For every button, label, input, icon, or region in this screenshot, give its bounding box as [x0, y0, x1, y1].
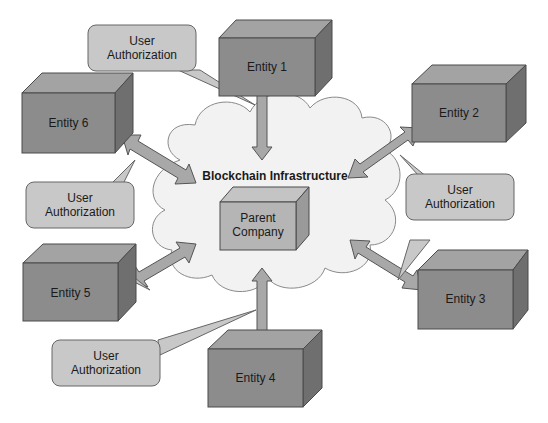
callout-1-line1: User [88, 34, 196, 48]
entity-box-4 [208, 330, 322, 407]
callout-2-text: User Authorization [26, 191, 134, 219]
entity-6-label: Entity 6 [22, 116, 115, 130]
entity-box-6 [22, 73, 133, 153]
entity-box-3 [418, 250, 528, 329]
cloud-label: Blockchain Infrastructure [190, 169, 360, 183]
callout-4-line1: User [52, 349, 160, 363]
callout-1-line2: Authorization [88, 48, 196, 62]
entity-box-1 [219, 20, 332, 96]
parent-company-label: Parent Company [220, 211, 296, 239]
callout-2-line2: Authorization [26, 205, 134, 219]
callout-2-line1: User [26, 191, 134, 205]
entity-1-label: Entity 1 [219, 60, 315, 74]
entity-box-5 [23, 244, 136, 321]
callout-3-line2: Authorization [406, 197, 514, 211]
entity-box-2 [412, 65, 526, 142]
entity-3-label: Entity 3 [418, 292, 513, 306]
callout-1-text: User Authorization [88, 34, 196, 62]
callout-3-line1: User [406, 183, 514, 197]
callout-3-text: User Authorization [406, 183, 514, 211]
entity-2-label: Entity 2 [412, 106, 506, 120]
callout-4-line2: Authorization [52, 363, 160, 377]
parent-line1: Parent [220, 211, 296, 225]
entity-4-label: Entity 4 [208, 371, 303, 385]
callout-4-text: User Authorization [52, 349, 160, 377]
parent-line2: Company [220, 225, 296, 239]
entity-5-label: Entity 5 [23, 286, 118, 300]
